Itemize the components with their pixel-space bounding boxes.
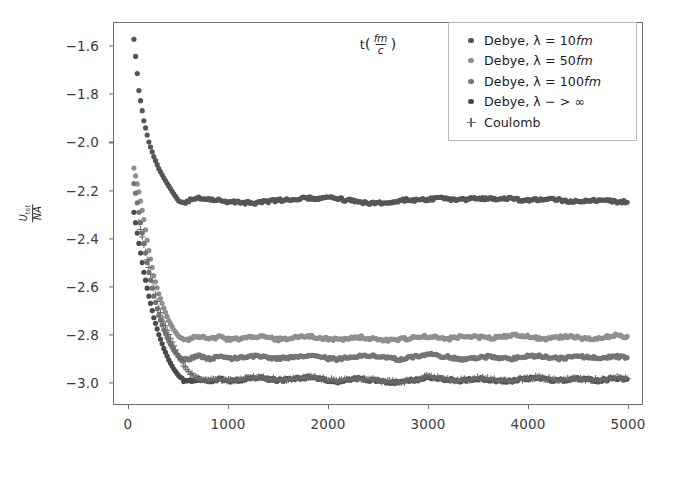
legend-dot-icon <box>468 79 473 84</box>
x-tick-label: 3000 <box>410 416 445 432</box>
y-tick-label: −2.4 <box>65 231 99 247</box>
legend-item-3[interactable]: Debye, λ − > ∞ <box>458 92 627 113</box>
x-tick-mark <box>528 405 529 409</box>
ylabel-subscript: tot <box>24 205 32 215</box>
y-tick-mark <box>109 335 113 336</box>
x-tick-label: 1000 <box>210 416 245 432</box>
legend-label-base: Debye, λ = 100 <box>484 74 584 89</box>
y-tick-label: −3.0 <box>65 375 99 391</box>
legend: Debye, λ = 10fmDebye, λ = 50fmDebye, λ =… <box>448 22 637 141</box>
x-tick-mark <box>228 405 229 409</box>
legend-item-1[interactable]: Debye, λ = 50fm <box>458 51 627 72</box>
y-tick-mark <box>109 238 113 239</box>
x-tick-mark <box>428 405 429 409</box>
y-tick-label: −2.6 <box>65 279 99 295</box>
y-tick-mark <box>109 142 113 143</box>
legend-label: Debye, λ = 100fm <box>484 74 601 89</box>
legend-item-4[interactable]: Coulomb <box>458 112 627 133</box>
y-tick-label: −1.8 <box>65 86 99 102</box>
x-tick-label: 4000 <box>510 416 545 432</box>
legend-label: Debye, λ = 10fm <box>484 33 593 48</box>
legend-marker-dot <box>458 38 484 43</box>
y-tick-mark <box>109 286 113 287</box>
legend-marker-dot <box>458 79 484 84</box>
figure: −1.6−1.8−2.0−2.2−2.4−2.6−2.8−3.0 0100020… <box>0 0 677 492</box>
legend-label-base: Debye, λ = 10 <box>484 33 576 48</box>
xlabel-denominator: c <box>376 44 386 56</box>
legend-dot-icon <box>468 38 473 43</box>
legend-label: Debye, λ − > ∞ <box>484 94 585 109</box>
legend-dot-icon <box>468 58 473 63</box>
legend-label-unit: fm <box>584 74 601 89</box>
legend-dot-icon <box>468 99 473 104</box>
legend-marker-dot <box>458 58 484 63</box>
x-axis: 010002000300040005000 <box>0 405 677 492</box>
legend-label: Coulomb <box>484 115 541 130</box>
y-tick-mark <box>109 46 113 47</box>
y-axis-label: Utot NA <box>19 202 43 225</box>
y-tick-mark <box>109 94 113 95</box>
x-axis-label: t( fm c ) <box>360 33 397 55</box>
x-tick-label: 5000 <box>610 416 645 432</box>
legend-plus-icon <box>467 118 476 127</box>
x-tick-label: 0 <box>124 416 133 432</box>
legend-marker-plus <box>458 118 484 127</box>
x-tick-mark <box>628 405 629 409</box>
y-tick-mark <box>109 190 113 191</box>
y-tick-mark <box>109 383 113 384</box>
x-tick-label: 2000 <box>310 416 345 432</box>
legend-label-unit: fm <box>576 33 593 48</box>
y-tick-label: −2.0 <box>65 134 99 150</box>
legend-item-2[interactable]: Debye, λ = 100fm <box>458 71 627 92</box>
y-tick-label: −2.8 <box>65 327 99 343</box>
legend-label-base: Coulomb <box>484 115 541 130</box>
ylabel-numerator: U <box>18 214 29 221</box>
series-1 <box>131 165 629 343</box>
legend-label-unit: fm <box>576 53 593 68</box>
x-tick-mark <box>128 405 129 409</box>
legend-marker-dot <box>458 99 484 104</box>
legend-label-base: Debye, λ − > ∞ <box>484 94 585 109</box>
y-tick-label: −2.2 <box>65 183 99 199</box>
xlabel-numerator: fm <box>372 33 390 44</box>
ylabel-denominator: NA <box>32 204 43 222</box>
legend-label: Debye, λ = 50fm <box>484 53 593 68</box>
legend-item-0[interactable]: Debye, λ = 10fm <box>458 30 627 51</box>
x-tick-mark <box>328 405 329 409</box>
legend-label-base: Debye, λ = 50 <box>484 53 576 68</box>
y-tick-label: −1.6 <box>65 38 99 54</box>
